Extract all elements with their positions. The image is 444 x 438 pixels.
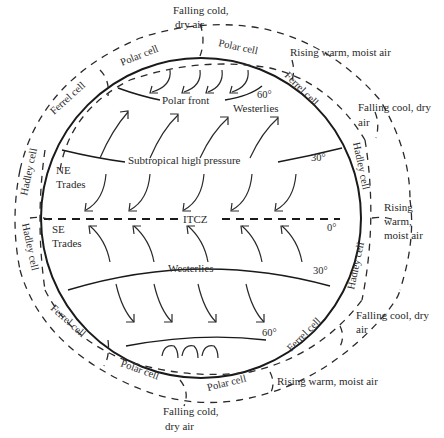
label-right-rising-3: moist air <box>384 229 423 241</box>
label-se-trades-1: SE <box>52 223 65 235</box>
label-top-right-rising: Rising warm, moist air <box>290 46 391 58</box>
label-hadley-cell-se: Hadley cell <box>345 241 366 290</box>
label-subtropical-high: Subtropical high pressure <box>128 154 241 166</box>
latitude-south-30: 30° <box>313 265 328 276</box>
ne-trades-arrows <box>85 174 296 211</box>
subtropical-high-line-left <box>62 150 125 162</box>
label-hadley-cell-nw: Hadley cell <box>18 147 39 196</box>
latitude-equator: 0° <box>327 222 336 233</box>
label-right-falling-upper-2: air <box>358 116 370 128</box>
label-hadley-cell-sw: Hadley cell <box>20 222 41 271</box>
label-bottom-falling-2: dry air <box>165 420 194 432</box>
south-60-line <box>126 337 266 346</box>
cell-loops <box>15 24 412 406</box>
label-westerlies-north: Westerlies <box>233 102 279 114</box>
label-right-falling-lower-2: air <box>356 323 368 335</box>
westerlies-arrows-south <box>116 284 264 322</box>
label-westerlies-south: Westerlies <box>168 262 214 274</box>
label-bottom-right-rising: Rising warm, moist air <box>277 375 378 387</box>
polar-easterly-arrows-north <box>150 70 248 93</box>
label-top-falling-line2: dry air <box>175 18 204 30</box>
label-se-trades-2: Trades <box>52 237 82 249</box>
label-ferrel-cell-ne: Ferrel cell <box>283 70 321 108</box>
westerlies-arrows-north <box>100 111 278 158</box>
latitude-north-30: 30° <box>311 152 326 163</box>
latitude-south-60: 60° <box>262 327 277 338</box>
se-trades-arrows <box>89 226 302 262</box>
atmospheric-circulation-diagram: Falling cold, dry air Rising warm, moist… <box>0 0 444 438</box>
label-ne-trades-2: Trades <box>56 178 86 190</box>
label-right-falling-upper-1: Falling cool, dry <box>358 101 432 113</box>
label-right-falling-lower-1: Falling cool, dry <box>356 309 430 321</box>
label-polar-front: Polar front <box>162 94 209 106</box>
polar-easterly-arrows-south <box>162 346 218 358</box>
label-right-rising-1: Rising <box>384 201 413 213</box>
label-bottom-falling-1: Falling cold, <box>163 405 219 417</box>
label-polar-cell-sw: Polar cell <box>119 358 160 382</box>
subtropical-high-line-right <box>278 148 342 162</box>
label-ferrel-cell-se: Ferrel cell <box>285 315 323 353</box>
label-right-rising-2: warm, <box>384 215 412 227</box>
polar-front-line <box>118 88 160 100</box>
latitude-north-60: 60° <box>257 89 272 100</box>
label-itcz: ITCZ <box>183 213 208 225</box>
label-ne-trades-1: NE <box>56 164 71 176</box>
label-top-falling-line1: Falling cold, <box>173 4 229 16</box>
label-polar-cell-nw: Polar cell <box>119 43 160 68</box>
label-polar-cell-ne: Polar cell <box>218 37 259 56</box>
